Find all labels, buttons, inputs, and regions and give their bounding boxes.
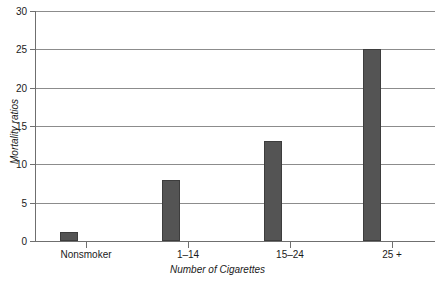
- x-tick-label-25-plus: 25 +: [382, 249, 402, 260]
- bar-nonsmoker: [60, 232, 78, 241]
- x-tick-mark-2: [188, 242, 189, 248]
- y-tick-label-25: 25: [16, 44, 27, 55]
- bar-chart-figure: 30 25 20 15 10 5 0 Mortality ratios Nons…: [0, 0, 435, 281]
- x-tick-label-1-14: 1–14: [177, 249, 199, 260]
- y-tick-label-5: 5: [21, 198, 27, 209]
- gridline-0: [35, 241, 435, 242]
- x-tick-mark-3: [290, 242, 291, 248]
- y-axis-line: [35, 11, 36, 242]
- x-tick-mark-4: [392, 242, 393, 248]
- bar-15-24: [264, 141, 282, 241]
- x-tick-mark-1: [86, 242, 87, 248]
- chart-title: [0, 0, 435, 1]
- y-tick-label-0: 0: [21, 236, 27, 247]
- bar-25-plus: [363, 49, 381, 241]
- y-tick-label-30: 30: [16, 6, 27, 17]
- plot-area: [35, 11, 435, 241]
- x-tick-label-nonsmoker: Nonsmoker: [60, 249, 111, 260]
- gridline-30: [35, 11, 435, 12]
- x-axis-title: Number of Cigarettes: [0, 264, 435, 275]
- bar-1-14: [162, 180, 180, 241]
- y-axis-title: Mortality ratios: [9, 87, 20, 177]
- x-tick-label-15-24: 15–24: [276, 249, 304, 260]
